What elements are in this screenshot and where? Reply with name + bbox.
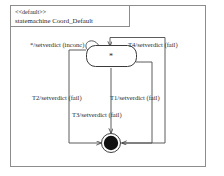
state-final[interactable] <box>102 134 121 153</box>
statechart-canvas: <<default>> statemachine Coord_Default <box>0 0 224 176</box>
transition-label-t1: T1/setverdict (fail) <box>110 94 160 102</box>
transition-label-t4: T4/setverdict (fail) <box>128 41 178 49</box>
stereotype-label: <<default>> <box>15 8 47 15</box>
transition-label-t2: T2/setverdict (fail) <box>32 94 82 102</box>
state-composite[interactable]: * <box>87 46 137 67</box>
transition-label-t3: T3/setverdict (fail) <box>72 111 122 119</box>
page-title: statemachine Coord_Default <box>15 17 93 24</box>
statechart-diagram: <<default>> statemachine Coord_Default <box>0 0 224 176</box>
transition-label-self: */setverdict (inconc) <box>30 41 84 49</box>
state-composite-label: * <box>109 52 113 61</box>
